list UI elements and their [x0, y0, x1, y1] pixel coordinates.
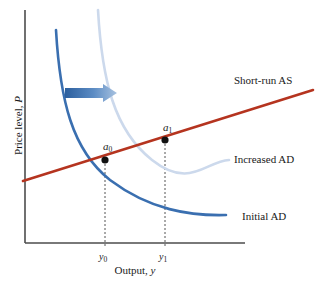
y-axis-title: Price level, P	[13, 81, 24, 171]
equilibrium-point-a0	[101, 156, 108, 163]
label-initial-ad: Initial AD	[242, 211, 286, 222]
equilibrium-point-a1	[161, 136, 168, 143]
label-increased-ad: Increased AD	[234, 154, 294, 165]
curve-initial-ad	[56, 30, 226, 215]
label-short-run-as: Short-run AS	[234, 75, 292, 86]
tick-label-y0: y0	[99, 252, 107, 262]
guide-lines	[105, 140, 165, 247]
x-axis-title: Output, y	[75, 265, 195, 276]
curve-increased-ad	[98, 10, 229, 174]
diagram-canvas	[0, 0, 319, 283]
ad-as-diagram: Price level, P Output, y Short-run AS In…	[0, 0, 319, 283]
point-label-a0: a0	[103, 141, 112, 152]
point-label-a1: a1	[163, 122, 172, 133]
tick-label-y1: y1	[159, 252, 167, 262]
